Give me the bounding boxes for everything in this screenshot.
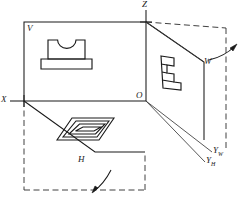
- label-axis-x: X: [1, 95, 7, 104]
- w-rotation-arrow: [209, 44, 237, 60]
- label-v-plane: V: [27, 24, 33, 33]
- w-unfolded-outline: [146, 22, 226, 149]
- top-view-drawing: [57, 118, 114, 140]
- projection-planes-figure: V Z X O W H YW YH: [0, 0, 246, 206]
- v-plane-outline: [24, 22, 146, 101]
- axis-tick-marks: [24, 22, 152, 107]
- label-origin: O: [136, 91, 143, 100]
- construction-line-z-to-w: [146, 22, 204, 62]
- label-axis-y-h: YH: [206, 156, 215, 167]
- side-view-drawing: [161, 56, 181, 90]
- axis-y-h: [146, 101, 205, 162]
- axis-y-w: [146, 101, 212, 152]
- label-h-plane: H: [78, 155, 85, 164]
- label-w-plane: W: [204, 57, 212, 66]
- front-view-drawing: [41, 40, 92, 69]
- label-axis-y-h-sub: H: [211, 161, 215, 167]
- label-axis-y-w-sub: W: [218, 151, 223, 157]
- w-plane-outline: [146, 22, 204, 140]
- figure-canvas: [0, 0, 246, 206]
- label-axis-z: Z: [142, 0, 147, 9]
